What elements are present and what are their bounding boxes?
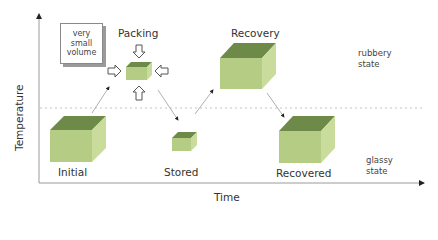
- stage-label-packing: Packing: [118, 28, 158, 39]
- transition-arrows: [92, 87, 284, 120]
- arrow-up-icon: [133, 86, 145, 100]
- stage-label-recovered: Recovered: [276, 168, 331, 179]
- state-word: glassy: [366, 155, 393, 166]
- y-axis-label: Temperature: [13, 85, 25, 151]
- callout-very-small-volume: very small volume: [60, 23, 103, 64]
- stage-label-recovery: Recovery: [231, 28, 280, 39]
- state-word: state: [358, 59, 391, 70]
- cube-packing: [126, 62, 152, 80]
- arrow-right-icon: [108, 65, 121, 77]
- state-label-glassy: glassy state: [366, 155, 393, 176]
- stage-label-initial: Initial: [58, 167, 87, 178]
- state-label-rubbery: rubbery state: [358, 48, 391, 69]
- cube-recovery: [220, 43, 276, 89]
- callout-line: small: [61, 39, 102, 49]
- cube-recovered: [279, 116, 335, 163]
- callout-line: very: [61, 29, 102, 39]
- state-word: state: [366, 166, 393, 177]
- arrow-down-icon: [133, 45, 145, 58]
- arrow-left-icon: [155, 65, 168, 77]
- callout-line: volume: [61, 48, 102, 58]
- cube-stored: [172, 132, 197, 151]
- stage-label-stored: Stored: [164, 167, 198, 178]
- x-axis-label: Time: [214, 192, 240, 203]
- state-word: rubbery: [358, 48, 391, 59]
- cube-initial: [50, 116, 106, 162]
